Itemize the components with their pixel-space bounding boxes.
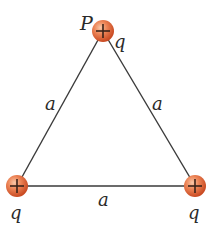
triangle-diagram: P q q q a a a xyxy=(0,0,210,237)
side-label-left: a xyxy=(45,93,56,114)
charge-bottom-right xyxy=(184,175,206,197)
charge-top xyxy=(92,20,114,42)
charge-label-bottom-right: q xyxy=(188,202,200,223)
side-label-right: a xyxy=(152,93,163,114)
charge-label-top: q xyxy=(114,31,126,52)
point-label-p: P xyxy=(79,12,94,34)
charge-bottom-left xyxy=(6,175,28,197)
side-left xyxy=(17,31,103,186)
side-right xyxy=(103,31,195,186)
charge-label-bottom-left: q xyxy=(10,202,22,223)
side-label-bottom: a xyxy=(98,189,109,210)
